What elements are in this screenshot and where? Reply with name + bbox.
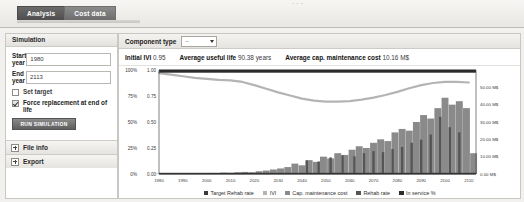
- bar-cap-maintenance-cost: [413, 122, 420, 174]
- chevron-down-icon: [210, 40, 214, 43]
- legend-label: Rehab rate: [363, 190, 390, 196]
- stat-initial-ivi-value: 0.95: [153, 54, 165, 61]
- end-year-input[interactable]: [26, 71, 111, 84]
- component-type-select[interactable]: --: [181, 36, 217, 47]
- stat-average-useful-life-value: 90.38 years: [238, 54, 271, 61]
- legend-swatch-icon: [399, 191, 404, 196]
- x-axis-tick: 2110: [464, 178, 474, 183]
- legend-swatch-icon: [356, 191, 361, 196]
- bar-cap-maintenance-cost: [384, 141, 391, 174]
- stat-average-useful-life: Average useful life 90.38 years: [180, 54, 272, 61]
- simulation-form: Start year End year Set target Force rep…: [6, 47, 117, 134]
- x-axis-tick: 2010: [226, 178, 236, 183]
- component-type-label: Component type: [125, 38, 176, 45]
- tab-analysis[interactable]: Analysis: [17, 6, 65, 21]
- component-type-bar: Component type --: [119, 34, 520, 49]
- x-axis-tick: 2100: [440, 178, 450, 183]
- bar-rehab-rate: [401, 147, 403, 174]
- force-replacement-label: Force replacement at end of life: [23, 99, 111, 113]
- x-axis-tick: 2090: [416, 178, 426, 183]
- start-year-row: Start year: [12, 52, 111, 66]
- legend-label: Cap. maintenance cost: [292, 190, 347, 196]
- bar-rehab-rate: [430, 134, 432, 174]
- x-axis-tick: 2060: [345, 178, 355, 183]
- bar-rehab-rate: [306, 160, 308, 174]
- left-axis-ratio-tick: 0.00: [147, 172, 156, 177]
- chart-legend: Target Rehab rateIVICap. maintenance cos…: [119, 188, 520, 198]
- legend-label: IVI: [270, 190, 277, 196]
- x-axis-tick: 2050: [321, 178, 331, 183]
- right-axis-tick: 10.00 M$: [480, 154, 499, 159]
- sidebar-title: Simulation: [6, 34, 117, 47]
- summary-stats: Initial IVI 0.95 Average useful life 90.…: [119, 49, 520, 66]
- bar-rehab-rate: [353, 156, 355, 174]
- set-target-row[interactable]: Set target: [12, 88, 111, 96]
- bar-rehab-rate: [458, 132, 460, 174]
- tab-list: Analysis Cost data: [17, 6, 116, 21]
- right-axis-tick: 40.00 M$: [480, 102, 499, 107]
- stat-initial-ivi: Initial IVI 0.95: [125, 54, 166, 61]
- legend-item[interactable]: Target Rehab rate: [204, 190, 254, 196]
- stat-average-useful-life-label: Average useful life: [180, 54, 237, 61]
- left-axis-percent-tick: 0%: [130, 172, 137, 177]
- plus-icon: [11, 144, 19, 152]
- legend-swatch-icon: [204, 191, 209, 196]
- run-simulation-button[interactable]: RUN SIMULATION: [12, 118, 76, 130]
- bar-rehab-rate: [391, 149, 393, 174]
- legend-item[interactable]: Cap. maintenance cost: [285, 190, 347, 196]
- component-type-value: --: [185, 38, 189, 44]
- bar-rehab-rate: [439, 117, 441, 174]
- tab-strip: Analysis Cost data ···: [0, 0, 524, 28]
- bar-cap-maintenance-cost: [320, 157, 327, 174]
- legend-item[interactable]: Rehab rate: [356, 190, 390, 196]
- bar-rehab-rate: [317, 162, 319, 174]
- end-year-label: End year: [12, 70, 26, 84]
- tab-cost-data[interactable]: Cost data: [64, 6, 115, 21]
- legend-item[interactable]: IVI: [263, 190, 277, 196]
- x-axis-tick: 2030: [273, 178, 283, 183]
- bar-cap-maintenance-cost: [356, 146, 363, 174]
- x-axis-tick: 2020: [250, 178, 260, 183]
- bar-cap-maintenance-cost: [291, 164, 298, 174]
- right-axis-tick: 20.00 M$: [480, 137, 499, 142]
- bar-cap-maintenance-cost: [299, 165, 306, 174]
- bar-rehab-rate: [363, 153, 365, 174]
- force-replacement-row[interactable]: Force replacement at end of life: [12, 99, 111, 113]
- application-window: Analysis Cost data ··· Simulation Start …: [0, 0, 524, 202]
- legend-swatch-icon: [263, 191, 268, 196]
- accordion-file-info[interactable]: File info: [6, 140, 117, 154]
- bar-rehab-rate: [410, 143, 412, 174]
- stat-average-cap-maintenance-cost: Average cap. maintenance cost 10.16 M$: [285, 54, 409, 61]
- force-replacement-checkbox[interactable]: [12, 100, 19, 107]
- x-axis-tick: 2000: [202, 178, 212, 183]
- left-axis-ratio-tick: 0.50: [147, 120, 156, 125]
- bar-cap-maintenance-cost: [463, 108, 470, 174]
- set-target-checkbox[interactable]: [12, 89, 19, 96]
- right-axis-tick: 50.00 M$: [480, 85, 499, 90]
- accordion-export-label: Export: [23, 155, 44, 168]
- legend-item[interactable]: In service %: [399, 190, 435, 196]
- end-year-row: End year: [12, 70, 111, 84]
- left-axis-percent-tick: 25%: [128, 146, 137, 151]
- left-axis-ratio-tick: 1.00: [147, 68, 156, 73]
- chart-canvas: 100%1.0075%0.7550%0.5025%0.250%0.0050.00…: [119, 66, 520, 188]
- analysis-main-panel: Component type -- Initial IVI 0.95 Avera…: [118, 33, 521, 199]
- set-target-label: Set target: [23, 88, 52, 95]
- accordion-file-info-label: File info: [23, 141, 48, 154]
- right-axis-tick: 0.00 M$: [480, 172, 496, 177]
- legend-label: In service %: [406, 190, 435, 196]
- left-axis-percent-tick: 100%: [125, 68, 137, 73]
- band-in-service-pct: [159, 70, 476, 73]
- x-axis-tick: 2070: [369, 178, 379, 183]
- legend-label: Target Rehab rate: [211, 190, 254, 196]
- accordion-export[interactable]: Export: [6, 154, 117, 168]
- bar-rehab-rate: [329, 157, 331, 174]
- simulation-chart: 100%1.0075%0.7550%0.5025%0.250%0.0050.00…: [119, 66, 520, 199]
- simulation-sidebar: Simulation Start year End year Set targe…: [5, 33, 118, 199]
- left-axis-ratio-tick: 0.25: [147, 146, 156, 151]
- legend-swatch-icon: [285, 191, 290, 196]
- start-year-input[interactable]: [26, 53, 111, 66]
- bar-rehab-rate: [420, 140, 422, 174]
- x-axis-tick: 1990: [178, 178, 188, 183]
- x-axis-tick: 1980: [154, 178, 164, 183]
